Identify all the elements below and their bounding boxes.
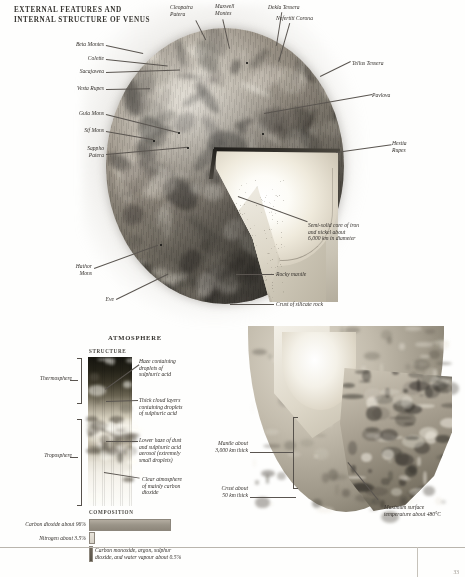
venus-cutaway-hemisphere: [248, 326, 458, 526]
label-gula-mons: Gula Mons: [40, 110, 104, 117]
leader-crust-thickness: [250, 497, 296, 498]
page-number: 33: [454, 569, 459, 575]
label-thermosphere: Thermosphere: [16, 375, 72, 382]
label-core: Semi-solid core of iron and nickel about…: [308, 222, 420, 242]
label-hathor-mons: Hathor Mons: [48, 263, 92, 276]
atmosphere-heading: ATMOSPHERE: [108, 334, 162, 341]
label-max-temperature: Maximum surface temperature about 480°C: [384, 504, 462, 517]
thermosphere-bracket: [76, 358, 82, 404]
leader-lower-haze: [106, 441, 138, 442]
label-hestia-rupes: Hestia Rupes: [392, 140, 442, 153]
atmosphere-hatch: [88, 357, 132, 506]
mantle-thickness-bracket: [293, 417, 299, 489]
bar-trace-gases: [89, 546, 93, 562]
bar-carbon-dioxide: [89, 519, 171, 531]
leader-troposphere: [70, 457, 78, 458]
marker-pavlova: [262, 133, 264, 135]
marker-nefertiti-corona: [246, 62, 248, 64]
label-nefertiti-corona: Nefertiti Corona: [276, 15, 338, 22]
marker-hathor-mons: [160, 244, 162, 246]
label-crust: Crust of silicate rock: [276, 301, 376, 308]
leader-crust: [230, 304, 274, 305]
label-dekla-tessera: Dekla Tessera: [268, 4, 324, 11]
marker-gula-mons: [178, 132, 180, 134]
label-sacajawea: Sacajawea: [44, 68, 104, 75]
footer-vertical-rule: [417, 547, 418, 577]
label-eve: Eve: [78, 296, 114, 303]
leader-mantle-thickness: [250, 452, 294, 453]
label-mantle-thickness: Mantle about 3,000 km thick: [182, 440, 248, 453]
leader-rocky-mantle: [236, 274, 274, 275]
label-sif-mons: Sif Mons: [40, 127, 104, 134]
label-haze: Haze containing droplets of sulphuric ac…: [139, 358, 205, 378]
label-carbon-dioxide: Carbon dioxide about 96%: [2, 521, 86, 528]
label-beta-montes: Beta Montes: [52, 41, 104, 48]
marker-sif-mons: [153, 140, 155, 142]
label-cloud-layers: Thick cloud layers containing droplets o…: [139, 397, 211, 417]
label-vesta-rupes: Vesta Rupes: [40, 85, 104, 92]
label-rocky-mantle: Rocky mantle: [276, 271, 362, 278]
label-sappho-patera: Sappho Patera: [40, 145, 104, 158]
footer-rule: [0, 547, 465, 548]
atmosphere-structure-strip: [88, 357, 132, 506]
troposphere-bracket: [76, 419, 82, 506]
label-crust-thickness: Crust about 50 km thick: [182, 485, 248, 498]
illustration-page: EXTERNAL FEATURES AND INTERNAL STRUCTURE…: [0, 0, 465, 577]
label-tellus-tessera: Tellus Tessera: [352, 60, 422, 67]
label-nitrogen: Nitrogen about 3.5%: [2, 535, 86, 542]
leader-thermosphere: [70, 380, 78, 381]
label-pavlova: Pavlova: [372, 92, 428, 99]
label-colette: Colette: [52, 55, 104, 62]
label-maxwell-montes: Maxwell Montes: [215, 3, 251, 16]
label-troposphere: Troposphere: [16, 452, 72, 459]
composition-heading: COMPOSITION: [89, 509, 134, 515]
label-trace-gases: Carbon monoxide, argon, sulphur dioxide,…: [95, 547, 217, 560]
bar-nitrogen: [89, 532, 95, 544]
structure-heading: STRUCTURE: [89, 348, 126, 354]
label-cleopatra-patera: Cleopatra Patera: [170, 4, 210, 17]
marker-sappho-patera: [187, 147, 189, 149]
